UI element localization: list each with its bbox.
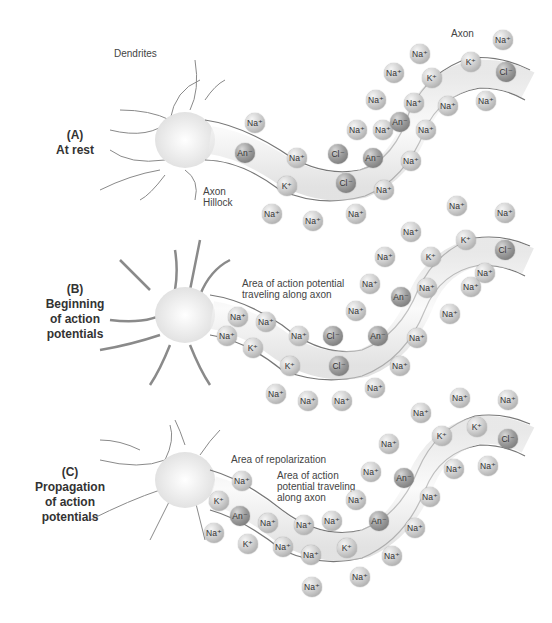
ion-k-plus: K⁺ — [337, 538, 357, 558]
ion-k-plus: K⁺ — [209, 491, 229, 511]
panel-c-label: (C) Propagation of action potentials — [15, 465, 125, 525]
ion-na-plus: Na⁺ — [417, 278, 437, 298]
ion-an-minus: An⁻ — [230, 506, 250, 526]
ion-na-plus: Na⁺ — [204, 523, 224, 543]
ion-na-plus: Na⁺ — [405, 518, 425, 538]
ion-na-plus: Na⁺ — [478, 456, 498, 476]
panel-c-letter: (C) — [15, 465, 125, 480]
dendrites-label: Dendrites — [114, 48, 157, 59]
ion-na-plus: Na⁺ — [382, 546, 402, 566]
panel-a-letter: (A) — [40, 128, 110, 143]
ion-an-minus: An⁻ — [235, 143, 255, 163]
ion-na-plus: Na⁺ — [303, 211, 323, 231]
ion-cl-minus: Cl⁻ — [496, 62, 516, 82]
ion-na-plus: Na⁺ — [384, 63, 404, 83]
ion-na-plus: Na⁺ — [301, 545, 321, 565]
ion-na-plus: Na⁺ — [407, 328, 427, 348]
area-action-potential-c-label: Area of action potential traveling along… — [277, 470, 355, 503]
panel-c-title-line1: Propagation — [15, 480, 125, 495]
ion-na-plus: Na⁺ — [410, 44, 430, 64]
axon-hillock-label: Axon Hillock — [203, 186, 232, 208]
panel-a-label: (A) At rest — [40, 128, 110, 158]
ion-na-plus: Na⁺ — [401, 222, 421, 242]
ion-na-plus: Na⁺ — [374, 180, 394, 200]
ion-na-plus: Na⁺ — [416, 120, 436, 140]
ion-na-plus: Na⁺ — [440, 304, 460, 324]
ion-na-plus: Na⁺ — [420, 487, 440, 507]
ion-an-minus: An⁻ — [390, 112, 410, 132]
ion-na-plus: Na⁺ — [228, 307, 248, 327]
neuron-action-potential-diagram: (A) At rest (B) Beginning of action pote… — [0, 0, 552, 623]
ion-cl-minus: Cl⁻ — [498, 429, 518, 449]
area-action-potential-b-label: Area of action potential traveling along… — [242, 278, 344, 300]
panel-b-label: (B) Beginning of action potentials — [25, 282, 125, 342]
ion-na-plus: Na⁺ — [366, 90, 386, 110]
ion-na-plus: Na⁺ — [498, 390, 518, 410]
panel-c-title-line3: potentials — [15, 510, 125, 525]
ion-na-plus: Na⁺ — [245, 113, 265, 133]
ion-cl-minus: Cl⁻ — [329, 356, 349, 376]
ion-na-plus: Na⁺ — [266, 384, 286, 404]
ion-cl-minus: Cl⁻ — [495, 240, 515, 260]
ion-na-plus: Na⁺ — [232, 471, 252, 491]
ion-na-plus: Na⁺ — [493, 30, 513, 50]
axon-label: Axon — [451, 28, 474, 39]
ion-na-plus: Na⁺ — [346, 301, 366, 321]
ion-na-plus: Na⁺ — [217, 326, 237, 346]
ion-na-plus: Na⁺ — [346, 204, 366, 224]
ion-k-plus: K⁺ — [238, 534, 258, 554]
neuron-a — [100, 58, 530, 201]
panel-c-title-line2: of action — [15, 495, 125, 510]
panel-a-title: At rest — [40, 143, 110, 158]
ion-na-plus: Na⁺ — [444, 459, 464, 479]
panel-b-letter: (B) — [25, 282, 125, 297]
ion-na-plus: Na⁺ — [322, 511, 342, 531]
ion-na-plus: Na⁺ — [450, 388, 470, 408]
ion-na-plus: Na⁺ — [390, 356, 410, 376]
ion-na-plus: Na⁺ — [294, 515, 314, 535]
ion-na-plus: Na⁺ — [476, 91, 496, 111]
ion-k-plus: K⁺ — [422, 68, 442, 88]
ion-k-plus: K⁺ — [461, 52, 481, 72]
ion-an-minus: An⁻ — [363, 148, 383, 168]
ion-na-plus: Na⁺ — [447, 196, 467, 216]
ion-na-plus: Na⁺ — [273, 537, 293, 557]
panel-b-title-line1: Beginning — [25, 297, 125, 312]
ion-na-plus: Na⁺ — [379, 434, 399, 454]
ion-na-plus: Na⁺ — [360, 274, 380, 294]
ion-na-plus: Na⁺ — [361, 462, 381, 482]
ion-na-plus: Na⁺ — [411, 403, 431, 423]
panel-b-title-line3: potentials — [25, 327, 125, 342]
ion-na-plus: Na⁺ — [404, 93, 424, 113]
ion-na-plus: Na⁺ — [495, 203, 515, 223]
ion-k-plus: K⁺ — [421, 247, 441, 267]
ion-na-plus: Na⁺ — [350, 567, 370, 587]
ion-na-plus: Na⁺ — [302, 577, 322, 597]
ion-na-plus: Na⁺ — [289, 326, 309, 346]
ion-cl-minus: Cl⁻ — [336, 173, 356, 193]
ion-k-plus: K⁺ — [277, 176, 297, 196]
ion-na-plus: Na⁺ — [375, 247, 395, 267]
ion-k-plus: K⁺ — [432, 426, 452, 446]
area-repolarization-label: Area of repolarization — [231, 454, 326, 465]
ion-na-plus: Na⁺ — [258, 513, 278, 533]
ion-an-minus: An⁻ — [368, 326, 388, 346]
ion-k-plus: K⁺ — [280, 356, 300, 376]
ion-na-plus: Na⁺ — [346, 490, 366, 510]
ion-an-minus: An⁻ — [369, 511, 389, 531]
ion-cl-minus: Cl⁻ — [323, 326, 343, 346]
ion-na-plus: Na⁺ — [365, 378, 385, 398]
ion-na-plus: Na⁺ — [256, 312, 276, 332]
ion-na-plus: Na⁺ — [401, 151, 421, 171]
ion-na-plus: Na⁺ — [298, 391, 318, 411]
ion-cl-minus: Cl⁻ — [328, 144, 348, 164]
ion-k-plus: K⁺ — [243, 338, 263, 358]
ion-na-plus: Na⁺ — [438, 96, 458, 116]
panel-b-title-line2: of action — [25, 312, 125, 327]
ion-na-plus: Na⁺ — [332, 391, 352, 411]
ion-na-plus: Na⁺ — [262, 204, 282, 224]
ion-na-plus: Na⁺ — [347, 120, 367, 140]
ion-an-minus: An⁻ — [394, 468, 414, 488]
neuron-b — [100, 237, 530, 385]
ion-na-plus: Na⁺ — [475, 263, 495, 283]
